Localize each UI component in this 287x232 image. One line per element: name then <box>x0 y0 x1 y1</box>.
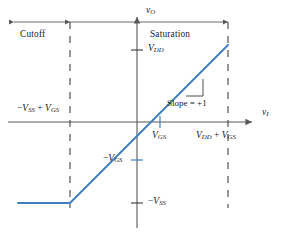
plus-op-2: + <box>212 130 222 140</box>
region-label-cutoff: Cutoff <box>20 30 45 39</box>
slope-annotation: Slope = +1 <box>167 99 207 108</box>
transfer-characteristic-figure: vO vI Cutoff Saturation VDD −VSS + VGS −… <box>0 0 287 232</box>
tick-label-vdd-plus-vgs: VDD + VGS <box>196 131 236 141</box>
y-axis-label: vO <box>146 6 155 16</box>
tick-label-neg-vss-plus-vgs: −VSS + VGS <box>17 104 59 114</box>
neg-vss-sub: SS <box>28 106 35 113</box>
slope-triangle <box>186 79 203 96</box>
tick-label-vdd-sub: DD <box>154 46 164 53</box>
tick-label-vgs: VGS <box>152 131 166 141</box>
neg-vss-sub-2: SS <box>159 199 166 206</box>
vdd-sub-2: DD <box>202 133 212 140</box>
vgs-sub-1: GS <box>51 106 59 113</box>
y-axis-label-sub: O <box>150 8 155 15</box>
x-axis-label-sub: I <box>266 110 268 117</box>
tick-label-neg-vss: −VSS <box>148 197 166 207</box>
vgs-sub-2: GS <box>158 133 166 140</box>
transfer-curve <box>18 45 228 203</box>
tick-label-neg-vgs: −VGS <box>103 154 122 164</box>
neg-vgs-sub: GS <box>114 156 122 163</box>
region-label-saturation: Saturation <box>150 30 190 39</box>
vgs-sub-3: GS <box>228 133 236 140</box>
plus-op-1: + <box>35 103 45 113</box>
x-axis-label: vI <box>262 108 268 118</box>
tick-label-vdd: VDD <box>148 44 164 54</box>
